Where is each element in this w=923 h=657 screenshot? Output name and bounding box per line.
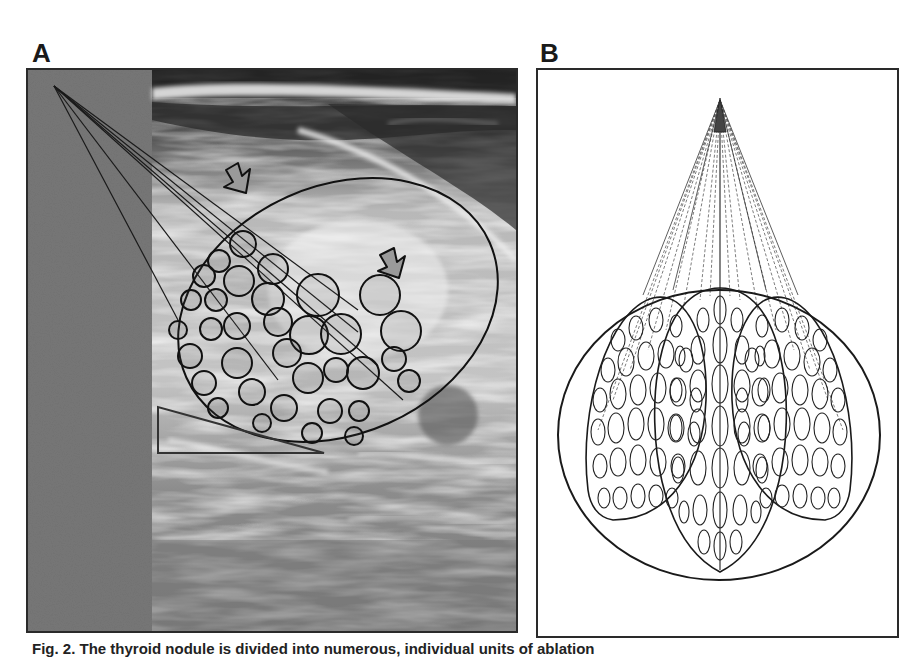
lobe-left (586, 297, 706, 520)
panel-b-schematic (536, 68, 899, 638)
ablation-lobes (586, 288, 852, 572)
panel-label-a: A (32, 40, 51, 66)
panel-a-ultrasound (26, 68, 518, 633)
ultrasound-illustration (28, 70, 516, 631)
figure-caption: Fig. 2. The thyroid nodule is divided in… (32, 640, 595, 657)
moving-shot-schematic (538, 70, 897, 636)
nodule-outline-circle (558, 290, 880, 580)
ablation-unit-ellipses (591, 296, 847, 560)
lobe-right (732, 297, 852, 520)
panel-label-b: B (540, 40, 559, 66)
